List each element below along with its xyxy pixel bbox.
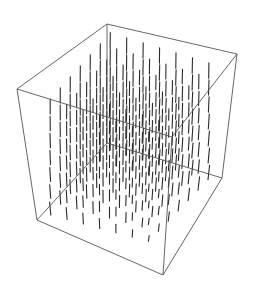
vector-arrow [188, 171, 189, 183]
vector-glyphs [50, 33, 210, 242]
vector-arrow [188, 137, 189, 150]
vector-arrow [176, 121, 177, 136]
vector-arrow [66, 156, 67, 169]
vector-arrow [159, 99, 160, 114]
vector-arrow [142, 184, 143, 194]
vector-arrow [189, 120, 190, 133]
vector-arrow [169, 143, 170, 154]
vector-arrow [146, 155, 147, 168]
vector-arrow [139, 156, 140, 170]
vector-arrow [159, 172, 160, 181]
vector-arrow [76, 196, 77, 209]
vector-arrow [139, 173, 140, 187]
vector-arrow [178, 183, 179, 194]
box-edge [222, 54, 237, 178]
vector-arrow [166, 132, 167, 146]
vector-arrow [60, 174, 61, 188]
vector-arrow [142, 201, 143, 210]
vector-arrow [192, 160, 193, 175]
vector-arrow [176, 104, 177, 119]
vector-arrow [148, 236, 149, 242]
vector-arrow [172, 149, 173, 162]
vector-arrow [176, 87, 177, 102]
vector-arrow [188, 188, 189, 200]
vector-arrow [175, 155, 176, 170]
box-edge [172, 54, 237, 137]
vector-arrow [168, 212, 169, 221]
vector-arrow [156, 178, 157, 191]
vector-arrow [179, 132, 180, 144]
vector-arrow [158, 189, 159, 198]
box-edge [17, 89, 37, 220]
vector-arrow [159, 155, 160, 165]
vector-arrow [158, 206, 159, 214]
vector-arrow [83, 213, 84, 224]
vector-field-plot [0, 0, 253, 293]
vector-arrow [50, 202, 51, 215]
vector-arrow [66, 208, 67, 220]
vector-arrow [70, 180, 71, 194]
vector-arrow [142, 166, 143, 176]
vector-arrow [146, 138, 147, 151]
vector-arrow [136, 184, 137, 195]
vector-arrow [198, 143, 199, 157]
vector-arrow [198, 177, 200, 190]
vector-arrow [162, 161, 163, 173]
vector-arrow [182, 138, 183, 152]
vector-arrow [148, 218, 149, 224]
vector-arrow [162, 143, 163, 155]
vector-arrow [149, 201, 150, 208]
vector-arrow [152, 138, 153, 150]
vector-arrow [198, 108, 199, 122]
vector-arrow [208, 131, 209, 146]
box-edge [17, 24, 107, 89]
vector-arrow [156, 127, 157, 141]
vector-arrow [208, 165, 210, 180]
vector-arrow [66, 173, 67, 186]
vector-arrow [60, 191, 61, 205]
vector-arrow [156, 161, 157, 174]
vector-arrow [50, 185, 51, 198]
box-edge [17, 89, 172, 137]
vector-arrow [192, 126, 193, 141]
vector-arrow [162, 126, 163, 139]
vector-arrow [198, 126, 199, 140]
vector-arrow [152, 206, 153, 216]
vector-arrow [146, 172, 147, 184]
vector-arrow [178, 149, 179, 161]
vector-arrow [178, 166, 179, 178]
vector-arrow [166, 98, 167, 113]
vector-arrow [182, 103, 183, 117]
vector-arrow [136, 201, 137, 212]
vector-arrow [158, 224, 159, 232]
vector-arrow [192, 143, 193, 158]
vector-arrow [152, 172, 153, 183]
vector-arrow [208, 114, 209, 129]
vector-arrow [76, 179, 77, 192]
vector-arrow [83, 196, 84, 207]
vector-arrow [188, 154, 189, 167]
vector-arrow [50, 151, 51, 165]
vector-arrow [70, 162, 71, 176]
vector-arrow [66, 190, 67, 202]
vector-arrow [182, 120, 183, 134]
vector-arrow [156, 144, 157, 158]
vector-arrow [142, 218, 143, 227]
vector-arrow [192, 75, 193, 90]
vector-arrow [172, 166, 173, 179]
vector-arrow [162, 178, 163, 190]
vector-arrow [178, 200, 179, 211]
vector-arrow [149, 184, 150, 192]
vector-arrow [152, 189, 153, 200]
vector-arrow [146, 189, 147, 201]
vector-arrow [60, 156, 61, 170]
vector-arrow [166, 115, 167, 129]
vector-arrow [165, 167, 166, 181]
vector-arrow [208, 148, 209, 163]
vector-arrow [182, 172, 183, 186]
vector-arrow [162, 195, 163, 207]
vector-arrow [208, 97, 209, 112]
vector-arrow [172, 183, 173, 196]
vector-arrow [192, 92, 193, 107]
box-edge [107, 143, 222, 178]
